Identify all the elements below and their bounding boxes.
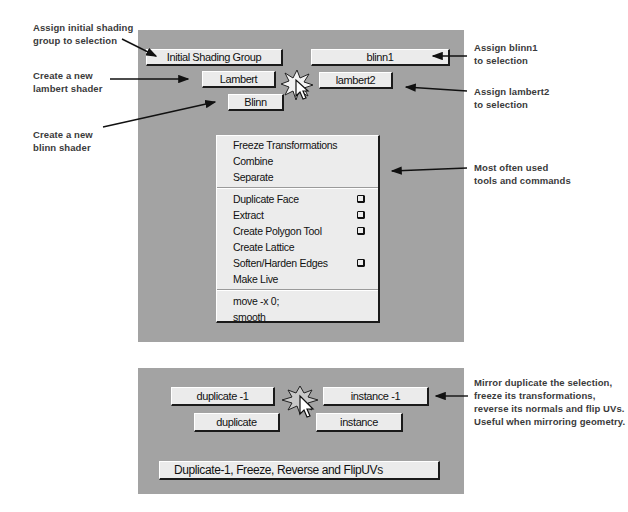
option-box-icon[interactable] bbox=[357, 211, 365, 219]
annotation-assign-lambert2: Assign lambert2to selection bbox=[474, 85, 549, 111]
menu-divider bbox=[217, 187, 378, 189]
menu-item-extract[interactable]: Extract bbox=[217, 207, 378, 223]
annotation-new-lambert: Create a newlambert shader bbox=[33, 69, 103, 95]
annotation-assign-blinn1: Assign blinn1to selection bbox=[474, 41, 538, 67]
marking-menu-cursor-icon bbox=[279, 68, 315, 102]
menu-item-soften-harden-edges[interactable]: Soften/Harden Edges bbox=[217, 255, 378, 271]
annotation-most-used: Most often usedtools and commands bbox=[474, 161, 571, 187]
menu-item-combine[interactable]: Combine bbox=[217, 153, 378, 169]
option-box-icon[interactable] bbox=[357, 259, 365, 267]
menu-item-duplicate-face[interactable]: Duplicate Face bbox=[217, 191, 378, 207]
menu-item-create-polygon-tool[interactable]: Create Polygon Tool bbox=[217, 223, 378, 239]
lambert-button[interactable]: Lambert bbox=[202, 71, 276, 88]
option-box-icon[interactable] bbox=[357, 195, 365, 203]
menu-item-smooth[interactable]: smooth bbox=[217, 309, 378, 325]
instance-button[interactable]: instance bbox=[316, 413, 403, 432]
menu-item-freeze-transformations[interactable]: Freeze Transformations bbox=[217, 137, 378, 153]
blinn1-button[interactable]: blinn1 bbox=[311, 49, 450, 66]
annotation-initial-shading: Assign initial shadinggroup to selection bbox=[33, 21, 133, 47]
initial-shading-group-button[interactable]: Initial Shading Group bbox=[146, 49, 283, 66]
menu-item-separate[interactable]: Separate bbox=[217, 169, 378, 185]
annotation-mirror: Mirror duplicate the selection,freeze it… bbox=[474, 376, 625, 428]
duplicate-minus1-button[interactable]: duplicate -1 bbox=[171, 387, 275, 406]
lambert2-button[interactable]: lambert2 bbox=[319, 72, 393, 89]
option-box-icon[interactable] bbox=[357, 227, 365, 235]
blinn-button[interactable]: Blinn bbox=[228, 94, 284, 111]
duplicate-button[interactable]: duplicate bbox=[194, 413, 280, 432]
duplicate-freeze-reverse-flipuvs-button[interactable]: Duplicate-1, Freeze, Reverse and FlipUVs bbox=[159, 461, 440, 480]
annotation-new-blinn: Create a newblinn shader bbox=[33, 128, 93, 154]
menu-divider bbox=[217, 289, 378, 291]
popup-menu: Freeze Transformations Combine Separate … bbox=[216, 135, 380, 323]
marking-menu-cursor-icon bbox=[280, 384, 320, 420]
menu-item-move-x-0[interactable]: move -x 0; bbox=[217, 293, 378, 309]
menu-item-make-live[interactable]: Make Live bbox=[217, 271, 378, 287]
menu-item-create-lattice[interactable]: Create Lattice bbox=[217, 239, 378, 255]
instance-minus1-button[interactable]: instance -1 bbox=[323, 387, 429, 406]
